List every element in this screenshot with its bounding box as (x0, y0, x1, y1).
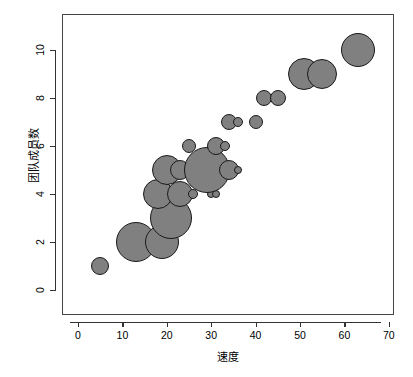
x-tick-mark (389, 322, 390, 327)
data-point-bubble (234, 166, 242, 174)
x-tick-mark (344, 322, 345, 327)
x-tick-label: 40 (241, 329, 271, 341)
data-point-bubble (91, 257, 109, 275)
y-axis-line (55, 50, 56, 291)
x-tick-label: 20 (152, 329, 182, 341)
y-tick-mark (50, 242, 55, 243)
data-point-bubble (341, 33, 375, 67)
x-tick-mark (300, 322, 301, 327)
x-tick-label: 50 (285, 329, 315, 341)
y-tick-mark (50, 146, 55, 147)
data-point-bubble (270, 90, 286, 106)
bubble-chart: 010203040506070 0246810 速度 团队成员数 (0, 0, 413, 377)
x-tick-mark (211, 322, 212, 327)
x-tick-mark (122, 322, 123, 327)
data-point-bubble (307, 59, 337, 89)
x-tick-label: 0 (63, 329, 93, 341)
x-tick-label: 30 (196, 329, 226, 341)
y-tick-mark (50, 50, 55, 51)
x-tick-label: 70 (374, 329, 404, 341)
data-point-bubble (182, 139, 196, 153)
x-tick-mark (167, 322, 168, 327)
y-tick-label: 10 (32, 42, 48, 58)
x-axis-label: 速度 (62, 348, 394, 364)
x-tick-mark (256, 322, 257, 327)
x-axis-line (70, 322, 381, 323)
data-point-bubble (233, 117, 243, 127)
x-tick-label: 60 (329, 329, 359, 341)
y-tick-label: 0 (32, 282, 48, 298)
y-tick-mark (50, 98, 55, 99)
data-point-bubble (249, 115, 263, 129)
y-tick-mark (50, 290, 55, 291)
plot-area (62, 14, 394, 315)
x-tick-mark (78, 322, 79, 327)
y-axis-label: 团队成员数 (26, 70, 42, 240)
data-point-bubble (220, 141, 230, 151)
y-tick-mark (50, 194, 55, 195)
x-tick-label: 10 (107, 329, 137, 341)
